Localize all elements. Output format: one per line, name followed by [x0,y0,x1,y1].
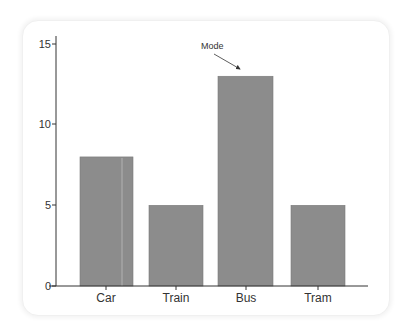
x-ticks: Car Train Bus Tram [96,286,331,305]
y-tick-label: 5 [45,199,51,211]
bar-bus [218,76,273,286]
mode-annotation: Mode [201,41,240,69]
x-tick-label-car: Car [96,291,115,305]
x-tick-label-bus: Bus [236,291,257,305]
bar-chart: 0 5 10 15 Car Train Bus Tram Mode [0,0,404,327]
bar-tram [291,205,345,286]
x-tick-label-tram: Tram [304,291,332,305]
annotation-arrow-icon [214,54,240,69]
x-tick-label-train: Train [163,291,190,305]
y-tick-label: 10 [39,118,51,130]
bars [80,76,345,286]
annotation-text: Mode [201,41,224,51]
bar-car [80,157,133,286]
y-tick-label: 15 [39,38,51,50]
y-ticks: 0 5 10 15 [39,38,56,292]
bar-train [149,205,203,286]
y-tick-label: 0 [45,280,51,292]
